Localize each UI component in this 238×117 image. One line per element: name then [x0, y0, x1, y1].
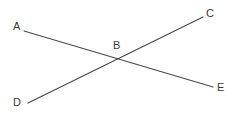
point-label-e: E: [217, 82, 225, 93]
line-segment-dc: [28, 17, 203, 103]
point-label-c: C: [206, 8, 214, 19]
diagram-canvas: A B C D E: [0, 0, 238, 117]
point-label-a: A: [13, 21, 21, 32]
point-label-b: B: [113, 40, 121, 51]
point-label-d: D: [13, 97, 21, 108]
geometry-figure: [0, 0, 238, 117]
